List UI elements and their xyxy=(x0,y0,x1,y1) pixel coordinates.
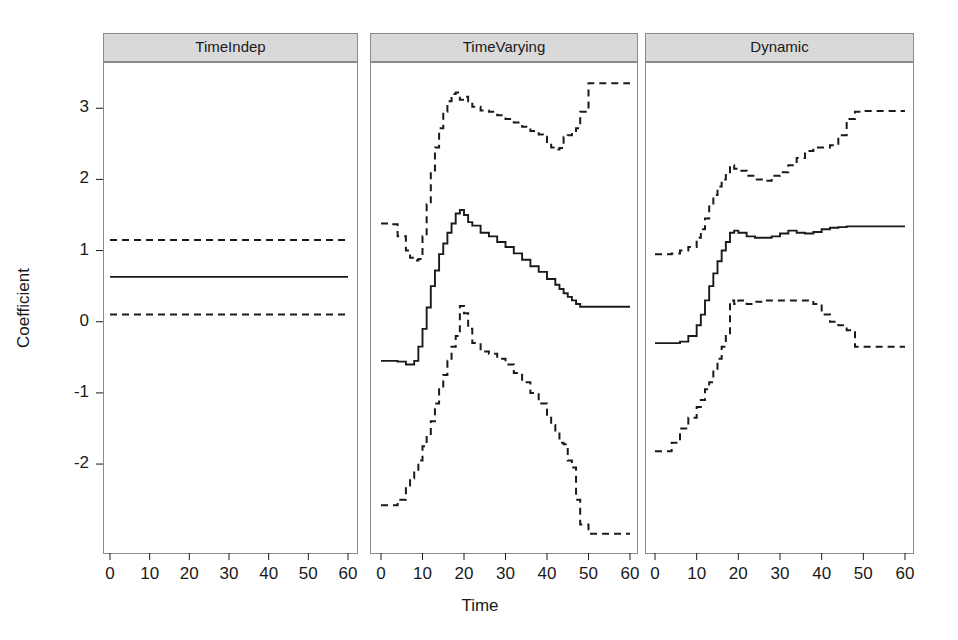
x-tick-label: 0 xyxy=(361,564,401,584)
series-upper_ci-panel-1 xyxy=(381,83,630,260)
y-tick-label: 1 xyxy=(55,240,89,260)
y-tick-label: -2 xyxy=(55,453,89,473)
x-axis-title: Time xyxy=(380,596,580,616)
x-tick-label: 30 xyxy=(486,564,526,584)
series-estimate-panel-2 xyxy=(655,226,905,343)
panel-strip-label-1: TimeVarying xyxy=(370,38,638,55)
figure-container: TimeIndep0102030405060TimeVarying0102030… xyxy=(0,0,958,640)
series-estimate-panel-1 xyxy=(381,210,630,364)
panel-strip-label-2: Dynamic xyxy=(645,38,914,55)
x-tick-label: 10 xyxy=(403,564,443,584)
panel-frame-2 xyxy=(646,63,914,554)
x-tick-label: 30 xyxy=(760,564,800,584)
y-tick-label: -1 xyxy=(55,382,89,402)
panel-strip-label-0: TimeIndep xyxy=(103,38,358,55)
x-tick-label: 0 xyxy=(90,564,130,584)
y-tick-label: 0 xyxy=(55,311,89,331)
x-tick-label: 40 xyxy=(802,564,842,584)
x-tick-label: 20 xyxy=(444,564,484,584)
y-axis-title: Coefficient xyxy=(14,218,34,398)
x-tick-label: 60 xyxy=(885,564,925,584)
x-tick-label: 40 xyxy=(527,564,567,584)
series-lower_ci-panel-1 xyxy=(381,306,630,534)
panel-frame-0 xyxy=(104,63,358,554)
y-tick-label: 2 xyxy=(55,168,89,188)
x-tick-label: 50 xyxy=(843,564,883,584)
x-tick-label: 20 xyxy=(718,564,758,584)
x-tick-label: 40 xyxy=(249,564,289,584)
y-tick-label: 3 xyxy=(55,97,89,117)
x-tick-label: 50 xyxy=(288,564,328,584)
x-tick-label: 30 xyxy=(209,564,249,584)
x-tick-label: 0 xyxy=(635,564,675,584)
x-tick-label: 10 xyxy=(677,564,717,584)
chart-canvas xyxy=(0,0,958,640)
x-tick-label: 20 xyxy=(169,564,209,584)
x-tick-label: 50 xyxy=(569,564,609,584)
series-lower_ci-panel-2 xyxy=(655,300,905,451)
x-tick-label: 10 xyxy=(130,564,170,584)
